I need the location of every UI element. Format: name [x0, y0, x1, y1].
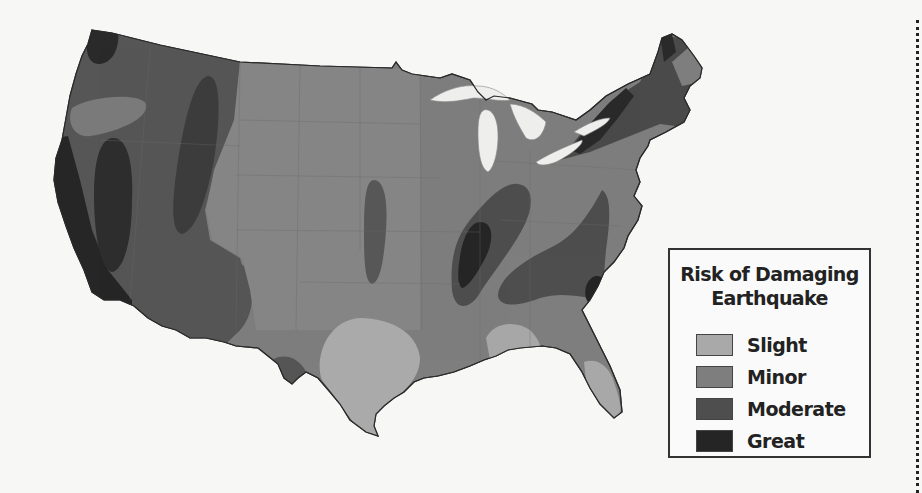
legend-label-minor: Minor	[747, 366, 806, 388]
legend-label-moderate: Moderate	[747, 398, 846, 420]
page-edge-dotted-rule	[916, 20, 919, 493]
legend-item-minor: Minor	[696, 361, 846, 393]
swatch-slight	[696, 334, 733, 356]
swatch-minor	[696, 366, 733, 388]
zone-texas-slight	[320, 318, 420, 438]
zone-florida-slight	[584, 361, 620, 420]
legend-title: Risk of Damaging Earthquake	[670, 262, 869, 310]
legend-item-great: Great	[696, 425, 846, 457]
legend-title-line1: Risk of Damaging	[670, 262, 869, 286]
legend-title-line2: Earthquake	[670, 286, 869, 310]
swatch-moderate	[696, 398, 733, 420]
legend: Risk of Damaging Earthquake Slight Minor…	[668, 248, 871, 458]
legend-label-slight: Slight	[747, 334, 807, 356]
legend-label-great: Great	[747, 430, 804, 452]
swatch-great	[696, 430, 733, 452]
legend-item-slight: Slight	[696, 329, 846, 361]
legend-item-moderate: Moderate	[696, 393, 846, 425]
legend-items: Slight Minor Moderate Great	[696, 329, 846, 457]
